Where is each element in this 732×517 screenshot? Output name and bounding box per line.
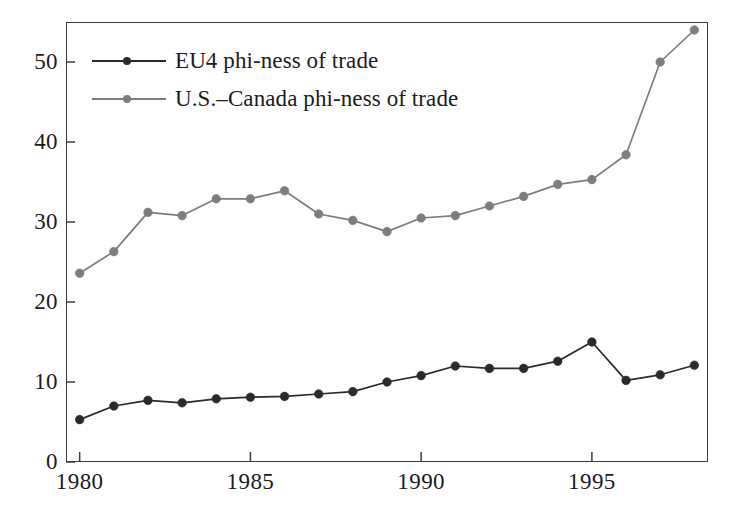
data-point [656,58,665,67]
series-eu4 [75,338,698,424]
data-point [144,396,153,405]
x-tick-label-1995: 1995 [547,470,637,494]
y-tick-label-40: 40 [12,130,58,153]
data-point [588,338,597,347]
y-tick-label-10: 10 [12,370,58,393]
y-tick-label-20: 20 [12,290,58,313]
y-axis-tick-marks [66,62,75,462]
y-axis-labels: 01020304050 [0,0,58,517]
data-point [178,399,187,408]
data-point [349,216,358,225]
y-tick-label-50: 50 [12,50,58,73]
data-point [280,392,289,401]
data-point [451,211,460,220]
data-point [690,26,699,35]
data-point [417,214,426,223]
data-point [314,390,323,399]
legend-item-us-canada: U.S.–Canada phi-ness of trade [92,80,432,118]
x-tick-label-1980: 1980 [35,470,125,494]
legend-swatch-us-canada [92,92,166,106]
data-point [622,376,631,385]
data-point [246,393,255,402]
legend-swatch-eu4 [92,54,166,68]
data-point [656,371,665,380]
x-axis-tick-marks [80,452,592,462]
data-point [349,387,358,396]
data-point [690,361,699,370]
x-tick-label-1990: 1990 [376,470,466,494]
legend-marker-us-canada [123,95,131,103]
data-point [75,269,84,278]
x-tick-label-1985: 1985 [205,470,295,494]
data-point [519,364,528,373]
data-point [246,195,255,204]
data-point [178,211,187,220]
data-point [75,415,84,424]
legend-label-us-canada: U.S.–Canada phi-ness of trade [175,87,458,111]
data-point [383,378,392,387]
data-point [485,364,494,373]
legend-item-eu4: EU4 phi-ness of trade [92,42,432,80]
data-point [553,357,562,366]
data-point [588,175,597,184]
legend-label-eu4: EU4 phi-ness of trade [175,49,378,73]
data-point [212,195,221,204]
chart-figure: 01020304050 1980198519901995 EU4 phi-nes… [0,0,732,517]
data-point [144,208,153,217]
legend-marker-eu4 [123,57,131,65]
y-tick-label-30: 30 [12,210,58,233]
data-point [519,192,528,201]
data-point [212,395,221,404]
data-point [485,202,494,211]
data-point [110,402,119,411]
data-point [451,362,460,371]
data-point [383,227,392,236]
data-point [622,151,631,160]
chart-legend: EU4 phi-ness of trade U.S.–Canada phi-ne… [92,42,432,118]
data-point [280,187,289,196]
data-point [417,371,426,380]
data-point [553,180,562,189]
data-point [110,247,119,256]
data-point [314,210,323,219]
